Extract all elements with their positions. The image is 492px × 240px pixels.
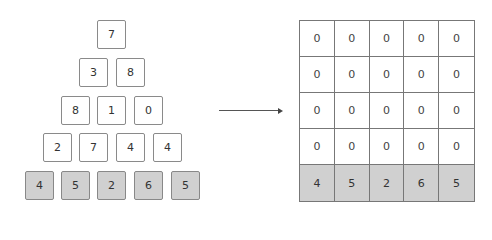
pyramid-cell: 4 — [153, 133, 182, 162]
arrow-right-icon — [219, 110, 279, 111]
grid-cell: 0 — [439, 57, 474, 93]
pyramid-base-cell: 6 — [134, 171, 163, 200]
grid-cell: 0 — [370, 57, 405, 93]
grid-cell: 0 — [335, 93, 370, 129]
pyramid-base-cell: 5 — [61, 171, 90, 200]
pyramid-cell: 8 — [61, 96, 90, 125]
pyramid-base-cell: 2 — [97, 171, 126, 200]
grid-cell: 0 — [439, 93, 474, 129]
grid-cell: 0 — [370, 129, 405, 165]
grid-cell: 0 — [439, 21, 474, 57]
pyramid-cell: 3 — [79, 58, 108, 87]
grid-cell: 0 — [370, 93, 405, 129]
arrowhead-icon — [278, 108, 283, 114]
grid-cell: 0 — [404, 21, 439, 57]
pyramid-cell: 1 — [97, 96, 126, 125]
pyramid-base-cell: 4 — [25, 171, 54, 200]
grid-cell: 0 — [335, 21, 370, 57]
pyramid-cell: 7 — [97, 20, 126, 49]
grid-cell: 0 — [404, 57, 439, 93]
pyramid-cell: 7 — [79, 133, 108, 162]
grid-base-cell: 2 — [370, 165, 405, 201]
dp-grid: 0 0 0 0 0 0 0 0 0 0 0 0 0 0 0 0 0 0 0 0 … — [299, 20, 475, 202]
grid-cell: 0 — [300, 93, 335, 129]
grid-cell: 0 — [335, 57, 370, 93]
grid-cell: 0 — [439, 129, 474, 165]
grid-base-cell: 4 — [300, 165, 335, 201]
grid-cell: 0 — [404, 93, 439, 129]
grid-base-cell: 5 — [335, 165, 370, 201]
pyramid-cell: 2 — [43, 133, 72, 162]
pyramid-cell: 0 — [134, 96, 163, 125]
grid-cell: 0 — [370, 21, 405, 57]
grid-cell: 0 — [404, 129, 439, 165]
pyramid-base-cell: 5 — [171, 171, 200, 200]
grid-cell: 0 — [300, 129, 335, 165]
grid-cell: 0 — [300, 57, 335, 93]
pyramid-cell: 8 — [116, 58, 145, 87]
pyramid-cell: 4 — [116, 133, 145, 162]
grid-base-cell: 5 — [439, 165, 474, 201]
grid-cell: 0 — [300, 21, 335, 57]
grid-base-cell: 6 — [404, 165, 439, 201]
grid-cell: 0 — [335, 129, 370, 165]
